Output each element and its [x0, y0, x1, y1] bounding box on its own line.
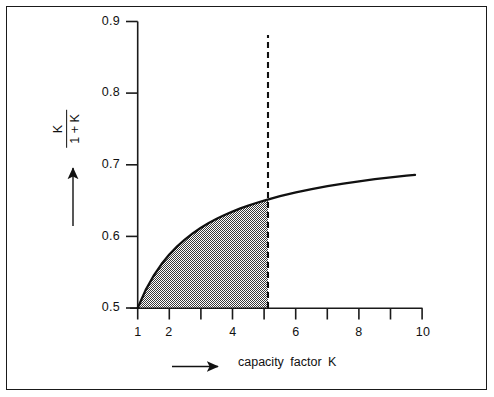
- x-axis-ticks: [138, 308, 422, 319]
- x-tick-label-4: 4: [220, 325, 246, 339]
- y-axis-label-numerator: K: [51, 110, 66, 148]
- shaded-operating-region: [138, 200, 268, 309]
- y-tick-label-0-6: 0.6: [86, 229, 120, 243]
- x-tick-label-10: 10: [409, 325, 437, 339]
- y-axis-ticks: [126, 22, 138, 309]
- x-axis-label: capacity factor K: [168, 355, 336, 369]
- y-axis-label-denominator: 1 + K: [68, 110, 83, 148]
- y-tick-label-0-7: 0.7: [86, 157, 120, 171]
- x-axis-label-text: capacity factor K: [238, 355, 336, 369]
- y-axis-label: K 1 + K: [44, 98, 90, 160]
- figure-container: 0.9 0.8 0.7 0.6 0.5 1 2 4 6 8 10 K 1 + K…: [0, 0, 494, 397]
- x-tick-label-2: 2: [156, 325, 182, 339]
- x-tick-label-6: 6: [283, 325, 309, 339]
- y-axis-label-fraction: K 1 + K: [51, 110, 83, 148]
- y-tick-label-0-5: 0.5: [86, 300, 120, 314]
- y-tick-label-0-8: 0.8: [86, 85, 120, 99]
- x-tick-label-8: 8: [346, 325, 372, 339]
- y-tick-label-0-9: 0.9: [86, 14, 120, 28]
- x-tick-label-1: 1: [125, 325, 151, 339]
